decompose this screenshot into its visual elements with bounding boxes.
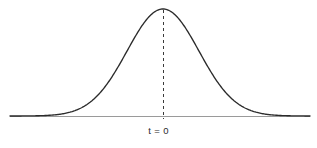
bell-curve-path (10, 9, 310, 116)
center-tick-label: t = 0 (0, 126, 317, 136)
bell-curve-figure: t = 0 (0, 0, 317, 148)
